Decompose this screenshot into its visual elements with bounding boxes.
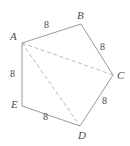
vertex-label-e: E bbox=[11, 99, 18, 110]
vertex-label-b: B bbox=[77, 10, 84, 21]
side-label-de: 8 bbox=[43, 112, 48, 122]
vertex-label-a: A bbox=[10, 31, 17, 42]
side-label-ea: 8 bbox=[10, 69, 15, 79]
side-label-ab: 8 bbox=[44, 20, 49, 30]
vertex-label-c: C bbox=[117, 70, 124, 81]
geometry-figure: A B C D E 8 8 8 8 8 bbox=[0, 0, 130, 146]
vertex-label-d: D bbox=[78, 130, 86, 141]
side-label-cd: 8 bbox=[102, 96, 107, 106]
side-label-bc: 8 bbox=[100, 42, 105, 52]
pentagon-outline bbox=[22, 24, 113, 126]
diagonal-ad-line bbox=[22, 43, 80, 126]
pentagon-diagram bbox=[0, 0, 130, 146]
